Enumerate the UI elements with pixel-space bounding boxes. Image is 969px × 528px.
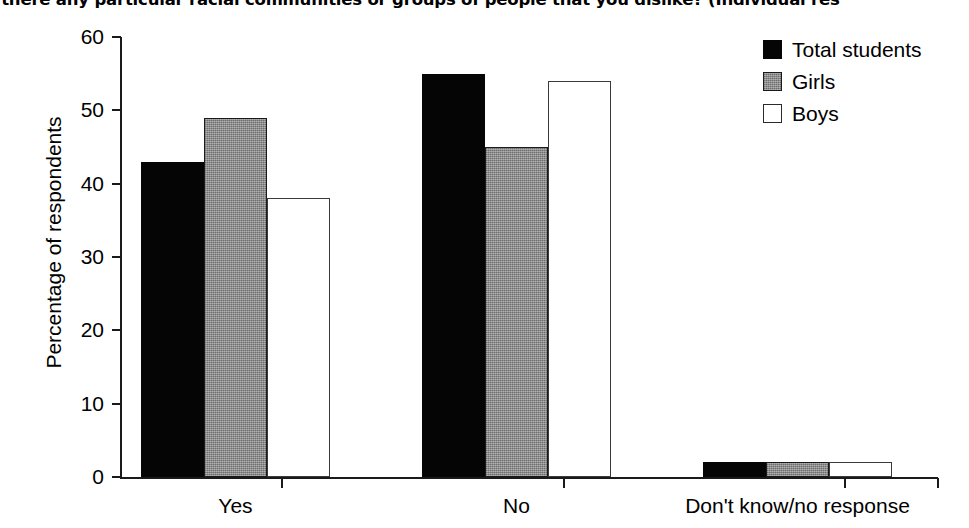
bar-total-students-yes xyxy=(141,162,204,477)
y-axis-tick-label: 30 xyxy=(58,246,104,267)
bar-boys-no xyxy=(548,81,611,477)
legend-item-girls: Girls xyxy=(763,65,968,97)
bar-boys-don-t-know-no-response xyxy=(829,462,892,477)
x-axis-label-don-t-know-no-response: Don't know/no response xyxy=(628,494,968,518)
chart-legend: Total studentsGirlsBoys xyxy=(763,33,968,129)
legend-label: Total students xyxy=(792,39,922,60)
chart-title: s there any particular racial communitie… xyxy=(0,0,969,11)
bar-girls-yes xyxy=(204,118,267,477)
legend-item-boys: Boys xyxy=(763,97,968,129)
x-axis-tick xyxy=(281,478,283,488)
bar-girls-no xyxy=(485,147,548,477)
legend-swatch-boys-icon xyxy=(763,104,782,123)
x-axis-tick xyxy=(563,478,565,488)
bar-total-students-don-t-know-no-response xyxy=(703,462,766,477)
legend-swatch-total-icon xyxy=(763,40,782,59)
legend-label: Boys xyxy=(792,103,839,124)
bar-girls-don-t-know-no-response xyxy=(766,462,829,477)
y-axis-tick-label: 60 xyxy=(58,26,104,47)
legend-item-total: Total students xyxy=(763,33,968,65)
y-axis-tick-label: 0 xyxy=(58,466,104,487)
legend-swatch-girls-icon xyxy=(763,72,782,91)
y-axis-tick-label: 50 xyxy=(58,99,104,120)
bar-total-students-no xyxy=(422,74,485,477)
x-axis-tick xyxy=(937,478,939,488)
y-axis-tick-label: 10 xyxy=(58,393,104,414)
y-axis-tick-label: 20 xyxy=(58,319,104,340)
x-axis-line xyxy=(120,477,938,479)
y-axis-tick-label: 40 xyxy=(58,173,104,194)
legend-label: Girls xyxy=(792,71,835,92)
x-axis-tick xyxy=(844,478,846,488)
bar-boys-yes xyxy=(267,198,330,477)
